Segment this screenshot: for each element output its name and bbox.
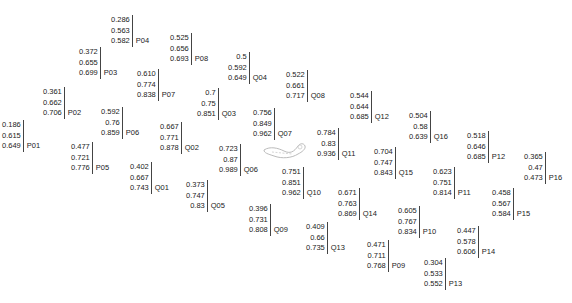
node-label: P04	[136, 36, 149, 47]
node-value: 0.711	[367, 251, 386, 262]
node-value: 0.365	[524, 152, 543, 163]
node-label: P10	[423, 227, 436, 238]
node-value: 0.522	[286, 70, 305, 81]
node-q02: 0.6670.7710.878Q02	[160, 122, 199, 154]
node-label: P07	[162, 90, 175, 101]
node-label: Q01	[155, 183, 169, 194]
node-values: 0.5220.6610.717	[286, 70, 308, 102]
node-values: 0.2860.5630.582	[111, 15, 133, 47]
node-p14: 0.4470.5780.606P14	[457, 226, 495, 258]
node-p05: 0.4770.7210.776P05	[71, 142, 109, 174]
node-label: P02	[68, 108, 81, 119]
node-values: 0.1860.6150.649	[2, 120, 24, 152]
node-values: 0.3730.7470.83	[186, 180, 208, 212]
node-values: 0.3720.6550.699	[79, 47, 101, 79]
node-label: P11	[458, 188, 471, 199]
node-values: 0.7840.830.936	[317, 128, 339, 160]
node-value: 0.186	[2, 120, 21, 131]
node-p11: 0.6230.7510.814P11	[433, 167, 471, 199]
node-values: 0.3650.470.473	[524, 152, 546, 184]
node-value: 0.567	[492, 199, 511, 210]
node-value: 0.723	[219, 144, 238, 155]
node-value: 0.518	[467, 131, 486, 142]
node-p12: 0.5180.6460.685P12	[467, 131, 505, 163]
node-value: 0.667	[160, 122, 179, 133]
node-q09: 0.3960.7310.808Q09	[249, 204, 288, 236]
node-values: 0.50.5920.649	[228, 52, 250, 84]
node-value: 0.784	[317, 128, 336, 139]
node-value: 0.5	[228, 52, 247, 63]
node-p10: 0.6050.7670.834P10	[398, 206, 436, 238]
node-values: 0.4470.5780.606	[457, 226, 479, 258]
node-p01: 0.1860.6150.649P01	[2, 120, 40, 152]
node-value: 0.735	[306, 243, 325, 254]
node-value: 0.814	[433, 188, 452, 199]
node-p13: 0.3040.5330.552P13	[424, 258, 462, 290]
node-value: 0.402	[130, 162, 149, 173]
node-label: P15	[517, 209, 530, 220]
node-value: 0.721	[71, 153, 90, 164]
node-value: 0.869	[338, 209, 357, 220]
node-value: 0.936	[317, 149, 336, 160]
node-value: 0.552	[424, 279, 443, 290]
node-q16: 0.5040.580.639Q16	[409, 111, 448, 143]
node-value: 0.774	[137, 80, 156, 91]
node-p07: 0.6100.7740.838P07	[137, 69, 175, 101]
node-value: 0.409	[306, 222, 325, 233]
node-values: 0.4710.7110.768	[367, 240, 389, 272]
node-q11: 0.7840.830.936Q11	[317, 128, 355, 160]
node-value: 0.767	[398, 217, 417, 228]
node-value: 0.606	[457, 247, 476, 258]
node-value: 0.661	[286, 81, 305, 92]
node-q03: 0.70.750.851Q03	[197, 88, 236, 120]
node-value: 0.76	[101, 118, 120, 129]
node-label: Q08	[311, 91, 325, 102]
node-value: 0.75	[197, 99, 216, 110]
node-label: Q09	[274, 225, 288, 236]
node-value: 0.655	[79, 58, 98, 69]
node-value: 0.656	[170, 44, 189, 55]
node-value: 0.843	[374, 168, 393, 179]
node-label: Q11	[342, 149, 356, 160]
node-value: 0.592	[228, 63, 247, 74]
node-label: Q12	[375, 112, 389, 123]
node-value: 0.743	[130, 183, 149, 194]
node-q06: 0.7230.870.989Q06	[219, 144, 258, 176]
node-value: 0.373	[186, 180, 205, 191]
node-values: 0.70.750.851	[197, 88, 219, 120]
node-value: 0.685	[350, 112, 369, 123]
node-p08: 0.5250.6560.693P08	[170, 33, 208, 65]
node-label: P13	[449, 279, 462, 290]
node-value: 0.646	[467, 142, 486, 153]
node-value: 0.671	[338, 188, 357, 199]
node-value: 0.83	[317, 139, 336, 150]
node-value: 0.396	[249, 204, 268, 215]
node-label: P03	[104, 68, 117, 79]
node-p06: 0.5920.760.859P06	[101, 107, 139, 139]
node-value: 0.7	[197, 88, 216, 99]
node-value: 0.639	[409, 132, 428, 143]
node-values: 0.4580.5670.584	[492, 188, 514, 220]
node-label: P08	[195, 54, 208, 65]
node-q12: 0.5440.6440.685Q12	[350, 91, 389, 123]
node-label: Q14	[363, 209, 377, 220]
node-values: 0.6710.7630.869	[338, 188, 360, 220]
node-value: 0.838	[137, 90, 156, 101]
node-values: 0.5180.6460.685	[467, 131, 489, 163]
node-values: 0.5040.580.639	[409, 111, 431, 143]
node-value: 0.66	[306, 233, 325, 244]
node-value: 0.834	[398, 227, 417, 238]
node-value: 0.592	[101, 107, 120, 118]
node-value: 0.768	[367, 261, 386, 272]
node-value: 0.473	[524, 173, 543, 184]
node-values: 0.6100.7740.838	[137, 69, 159, 101]
node-value: 0.808	[249, 225, 268, 236]
node-label: P05	[96, 163, 109, 174]
node-value: 0.544	[350, 91, 369, 102]
node-label: Q06	[244, 165, 258, 176]
node-label: Q15	[399, 168, 413, 179]
node-label: Q13	[331, 243, 345, 254]
node-p03: 0.3720.6550.699P03	[79, 47, 117, 79]
node-value: 0.859	[101, 128, 120, 139]
node-values: 0.7510.8510.962	[282, 167, 304, 199]
